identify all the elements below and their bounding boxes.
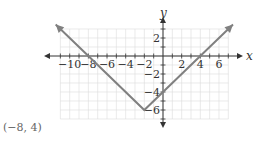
y-tick-label: −2 <box>144 68 160 81</box>
x-tick-label: 6 <box>215 58 222 71</box>
point-label: (−8, 4) <box>3 121 42 134</box>
x-tick-label: 2 <box>178 58 185 71</box>
tick-labels: −10−8−6−4−22462−2−4−6 <box>58 32 222 117</box>
x-tick-label: 4 <box>197 58 204 71</box>
x-tick-label: −4 <box>118 58 134 71</box>
y-axis-label: y <box>159 6 167 20</box>
x-tick-label: −10 <box>58 58 81 71</box>
x-axis-label: x <box>246 49 253 63</box>
y-tick-label: 2 <box>153 32 160 45</box>
y-tick-label: −6 <box>144 104 160 117</box>
x-tick-label: −8 <box>80 58 96 71</box>
